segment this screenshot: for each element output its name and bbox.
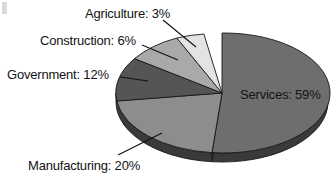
label-construction: Construction: 6%: [40, 33, 136, 48]
pie-chart-figure: Agriculture: 3% Construction: 6% Governm…: [0, 0, 336, 178]
pie-chart-svg: Agriculture: 3% Construction: 6% Governm…: [0, 0, 336, 178]
label-agriculture: Agriculture: 3%: [85, 6, 171, 21]
label-services: Services: 59%: [240, 87, 321, 102]
label-government: Government: 12%: [7, 67, 109, 82]
label-manufacturing: Manufacturing: 20%: [28, 158, 141, 173]
corner-artifact: [2, 2, 7, 14]
